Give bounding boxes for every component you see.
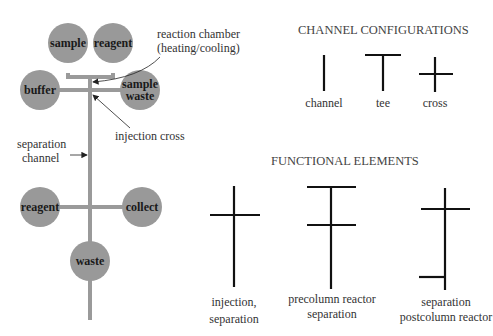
functional-elements-items-1-label-line2: separation [307,307,356,321]
reservoir-reagent-top: reagent [93,23,133,63]
functional-elements-items-0-label-line1: injection, [212,295,257,309]
reservoir-reagent-bottom: reagent [20,187,60,227]
microfluidic-diagram: sample reagent buffer sample waste reage… [0,0,493,336]
config-label-channel: channel [305,96,343,110]
functional-elements-items-1-label-line1: precolumn reactor [288,292,376,306]
channel-configurations-title: CHANNEL CONFIGURATIONS [298,23,469,37]
config-label-tee: tee [376,96,390,110]
chip-annotations-injection-cross: injection cross [115,129,185,143]
chip-reservoirs-3-label-line2: waste [126,89,155,103]
functional-elements-items-2-label-line2: postcolumn reactor [400,310,492,324]
chip-reservoirs-5-label: collect [126,200,159,214]
annotation-separation-channel: separation channel [17,137,87,165]
chip-annotations-reaction-chamber-line2: (heating/cooling) [157,41,240,55]
chip-annotations-separation-channel-line1: separation [17,137,66,151]
chip-reservoirs-0-label: sample [50,36,87,50]
reservoir-buffer: buffer [20,70,60,110]
functional-elements-items-0-label-line2: separation [209,312,258,326]
chip-reservoirs-1-label: reagent [94,36,132,50]
config-glyphs [324,55,453,92]
chip-reservoirs-2-label: buffer [24,83,57,97]
chip-annotations-reaction-chamber-line1: reaction chamber [157,27,240,41]
reservoir-waste: waste [70,241,110,281]
chip-reservoirs-4-label: reagent [21,200,59,214]
chip-annotations-separation-channel-line2: channel [22,151,60,165]
reservoir-sample: sample [48,23,88,63]
chip-reservoirs-6-label: waste [76,254,105,268]
functional-elements-title: FUNCTIONAL ELEMENTS [271,154,419,168]
functional-glyphs [210,186,470,290]
reservoir-collect: collect [122,187,162,227]
functional-elements-items-2-label-line1: separation [421,295,470,309]
config-label-cross: cross [423,96,448,110]
